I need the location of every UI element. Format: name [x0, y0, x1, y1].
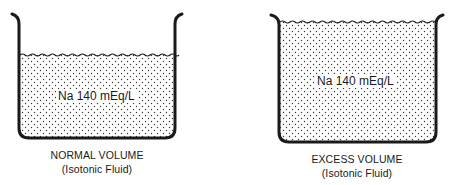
excess-caption-title: EXCESS VOLUME [257, 153, 455, 166]
normal-volume-panel: Na 140 mEq/L NORMAL VOLUME (Isotonic Flu… [0, 0, 230, 185]
normal-concentration-label: Na 140 mEq/L [56, 89, 137, 103]
excess-volume-panel: Na 140 mEq/L EXCESS VOLUME (Isotonic Flu… [225, 0, 455, 185]
excess-concentration-label: Na 140 mEq/L [315, 74, 396, 88]
normal-caption-subtitle: (Isotonic Fluid) [0, 163, 197, 176]
excess-caption-subtitle: (Isotonic Fluid) [257, 167, 455, 180]
normal-caption-title: NORMAL VOLUME [0, 149, 197, 162]
